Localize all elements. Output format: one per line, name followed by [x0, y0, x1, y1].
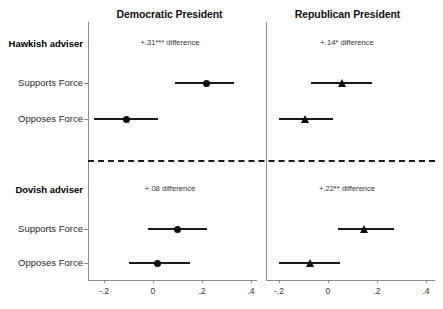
point-estimate-triangle-marker	[306, 259, 314, 267]
point-estimate-circle-marker	[154, 260, 161, 267]
panel-title-republican: Republican President	[266, 8, 429, 20]
x-axis-tick-label: -.2	[89, 286, 119, 296]
x-axis-tick-mark	[104, 280, 105, 283]
x-axis-tick-label: 0	[138, 286, 168, 296]
x-axis-tick-mark	[202, 280, 203, 283]
x-axis-tick-mark	[426, 280, 427, 283]
x-axis-tick-mark	[153, 280, 154, 283]
row-label-dovish-opposes: Opposes Force	[0, 257, 83, 268]
x-axis-tick-label: 0	[313, 286, 343, 296]
point-estimate-triangle-marker	[360, 225, 368, 233]
x-axis-tick-mark	[328, 280, 329, 283]
left-panel-y-axis	[88, 22, 89, 280]
x-axis-tick-label: .4	[411, 286, 441, 296]
x-axis-tick-label: .4	[236, 286, 266, 296]
x-axis-tick-label: .2	[362, 286, 392, 296]
point-estimate-circle-marker	[174, 226, 181, 233]
x-axis-tick-mark	[279, 280, 280, 283]
x-axis-tick-label: .2	[187, 286, 217, 296]
right-panel-y-axis	[266, 22, 267, 280]
point-estimate-circle-marker	[123, 116, 130, 123]
annotation-hawkish-democratic: +.31*** difference	[105, 38, 235, 47]
row-label-dovish-supports: Supports Force	[0, 223, 83, 234]
point-estimate-circle-marker	[203, 80, 210, 87]
point-estimate-triangle-marker	[301, 115, 309, 123]
right-panel-x-axis	[266, 280, 435, 281]
group-separator	[88, 160, 435, 162]
coefficient-plot: Democratic President Republican Presiden…	[0, 0, 443, 309]
left-panel-x-axis	[88, 280, 257, 281]
x-axis-tick-mark	[251, 280, 252, 283]
x-axis-tick-mark	[377, 280, 378, 283]
x-axis-tick-label: -.2	[264, 286, 294, 296]
annotation-dovish-republican: +.22** difference	[288, 184, 406, 193]
group-label-dovish: Dovish adviser	[0, 184, 83, 195]
row-label-hawkish-supports: Supports Force	[0, 77, 83, 88]
point-estimate-triangle-marker	[338, 79, 346, 87]
annotation-hawkish-republican: +.14* difference	[288, 38, 406, 47]
annotation-dovish-democratic: +.08 difference	[105, 184, 235, 193]
group-label-hawkish: Hawkish adviser	[0, 38, 83, 49]
row-label-hawkish-opposes: Opposes Force	[0, 113, 83, 124]
panel-title-democratic: Democratic President	[88, 8, 251, 20]
